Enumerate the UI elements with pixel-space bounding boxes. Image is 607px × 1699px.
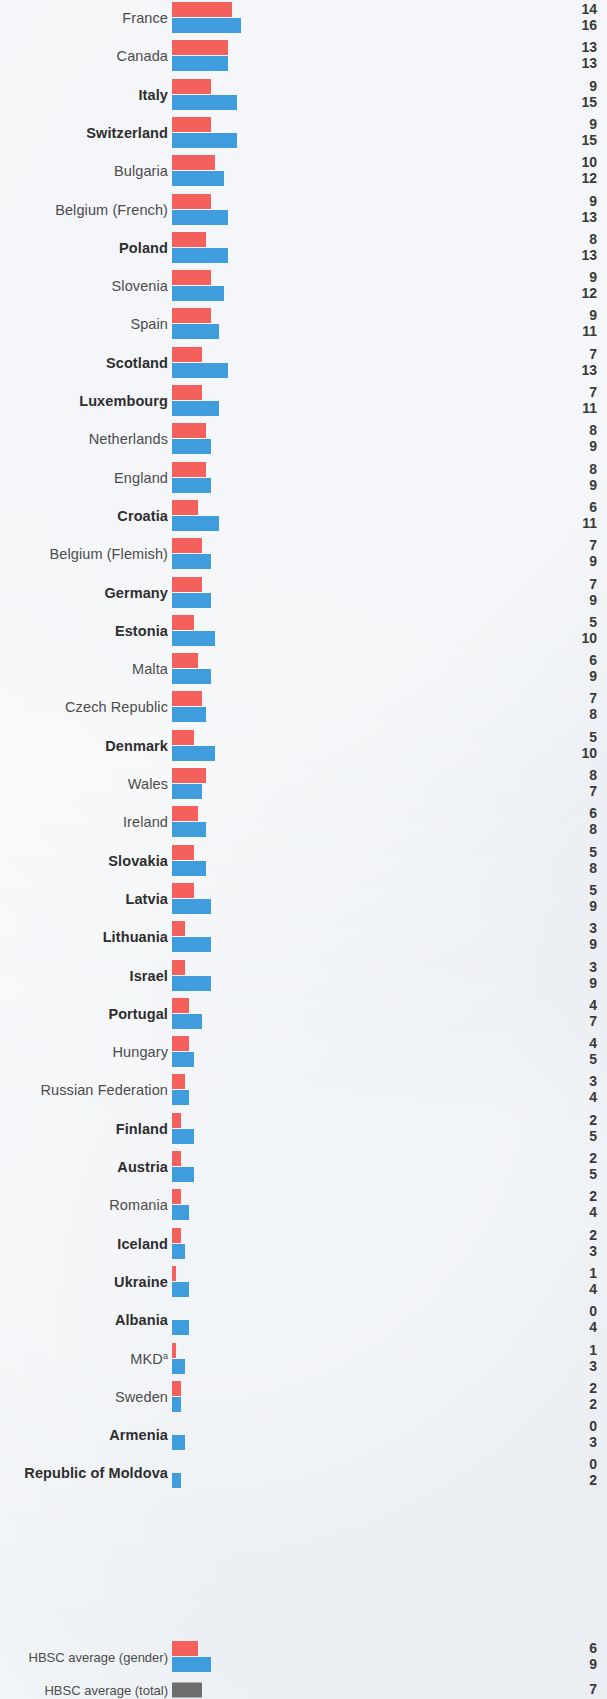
bar-boys xyxy=(172,117,211,132)
bar-boys xyxy=(172,423,206,438)
legend-swatch-total xyxy=(172,1683,202,1698)
value-boys: 14 xyxy=(557,1,597,17)
value-boys: 9 xyxy=(557,116,597,132)
bar-girls xyxy=(172,822,206,837)
chart-row: Russian Federation34 xyxy=(0,1072,607,1108)
category-label: Spain xyxy=(130,316,168,332)
value-girls: 8 xyxy=(557,706,597,722)
bar-boys xyxy=(172,1036,189,1051)
bar-boys xyxy=(172,1189,181,1204)
value-girls: 5 xyxy=(557,1166,597,1182)
bar-girls xyxy=(172,1397,181,1412)
value-girls: 13 xyxy=(557,247,597,263)
legend-label: HBSC average (gender) xyxy=(29,1650,168,1665)
bar-girls xyxy=(172,210,228,225)
value-boys: 9 xyxy=(557,193,597,209)
bar-boys xyxy=(172,1151,181,1166)
bar-girls xyxy=(172,171,224,186)
value-boys: 7 xyxy=(557,576,597,592)
value-girls: 9 xyxy=(557,592,597,608)
chart-row: Portugal47 xyxy=(0,996,607,1032)
value-girls: 9 xyxy=(557,975,597,991)
category-label: Italy xyxy=(138,87,168,103)
bar-boys xyxy=(172,806,198,821)
value-boys: 2 xyxy=(557,1227,597,1243)
value-girls: 5 xyxy=(557,1051,597,1067)
bar-boys xyxy=(172,730,194,745)
bar-girls xyxy=(172,899,211,914)
chart-row: Germany79 xyxy=(0,575,607,611)
bar-girls xyxy=(172,1320,189,1335)
value-boys: 9 xyxy=(557,307,597,323)
chart-row: Scotland713 xyxy=(0,345,607,381)
category-label: Malta xyxy=(132,661,168,677)
category-label: Latvia xyxy=(125,891,168,907)
chart-row: Iceland23 xyxy=(0,1226,607,1262)
chart-row: Armenia03 xyxy=(0,1417,607,1453)
legend-bar-girls xyxy=(172,1657,211,1672)
legend-value-girls: 9 xyxy=(557,1656,597,1672)
value-boys: 6 xyxy=(557,499,597,515)
chart-row: Spain911 xyxy=(0,306,607,342)
category-label: Finland xyxy=(116,1121,168,1137)
bar-girls xyxy=(172,516,219,531)
value-boys: 10 xyxy=(557,154,597,170)
value-girls: 9 xyxy=(557,438,597,454)
value-boys: 6 xyxy=(557,652,597,668)
bar-boys xyxy=(172,40,228,55)
value-boys: 1 xyxy=(557,1342,597,1358)
value-girls: 2 xyxy=(557,1396,597,1412)
value-boys: 7 xyxy=(557,384,597,400)
chart-row: Italy915 xyxy=(0,77,607,113)
chart-row: Luxembourg711 xyxy=(0,383,607,419)
bar-boys xyxy=(172,232,206,247)
bar-girls xyxy=(172,286,224,301)
chart-row: France1416 xyxy=(0,0,607,36)
chart-row: Ukraine14 xyxy=(0,1264,607,1300)
category-label: Switzerland xyxy=(86,125,168,141)
bar-girls xyxy=(172,1359,185,1374)
category-label: Croatia xyxy=(117,508,168,524)
bar-boys xyxy=(172,155,215,170)
chart-row: Republic of Moldova02 xyxy=(0,1455,607,1491)
value-girls: 3 xyxy=(557,1434,597,1450)
value-boys: 1 xyxy=(557,1265,597,1281)
bar-boys xyxy=(172,385,202,400)
bar-girls xyxy=(172,1052,194,1067)
bar-girls xyxy=(172,937,211,952)
chart-row: Lithuania39 xyxy=(0,919,607,955)
value-girls: 4 xyxy=(557,1089,597,1105)
value-boys: 0 xyxy=(557,1418,597,1434)
bar-girls xyxy=(172,133,237,148)
value-girls: 8 xyxy=(557,860,597,876)
value-girls: 9 xyxy=(557,936,597,952)
category-label: England xyxy=(114,470,168,486)
value-girls: 4 xyxy=(557,1319,597,1335)
chart-row: England89 xyxy=(0,460,607,496)
value-boys: 9 xyxy=(557,269,597,285)
value-boys: 13 xyxy=(557,39,597,55)
chart-row: Estonia510 xyxy=(0,613,607,649)
bar-boys xyxy=(172,1381,181,1396)
chart-row: MKDa13 xyxy=(0,1341,607,1377)
chart-row: Finland25 xyxy=(0,1111,607,1147)
bar-girls xyxy=(172,861,206,876)
value-boys: 2 xyxy=(557,1150,597,1166)
value-boys: 9 xyxy=(557,78,597,94)
value-boys: 0 xyxy=(557,1456,597,1472)
value-girls: 13 xyxy=(557,55,597,71)
chart-row: Ireland68 xyxy=(0,804,607,840)
value-girls: 9 xyxy=(557,477,597,493)
bar-boys xyxy=(172,1074,185,1089)
bar-boys xyxy=(172,577,202,592)
value-boys: 2 xyxy=(557,1112,597,1128)
category-label: Denmark xyxy=(105,738,168,754)
chart-row: Croatia611 xyxy=(0,498,607,534)
value-girls: 3 xyxy=(557,1358,597,1374)
bar-boys xyxy=(172,347,202,362)
category-label: Republic of Moldova xyxy=(24,1465,168,1481)
bar-girls xyxy=(172,784,202,799)
value-girls: 10 xyxy=(557,745,597,761)
chart-row: Romania24 xyxy=(0,1187,607,1223)
bar-boys xyxy=(172,1228,181,1243)
